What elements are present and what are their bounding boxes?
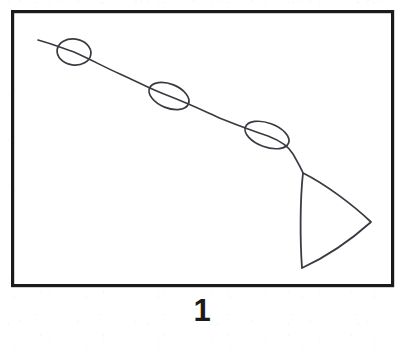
figure-root: 1 <box>0 0 408 349</box>
figure-caption: 1 <box>0 292 404 330</box>
panel-border <box>13 12 393 286</box>
